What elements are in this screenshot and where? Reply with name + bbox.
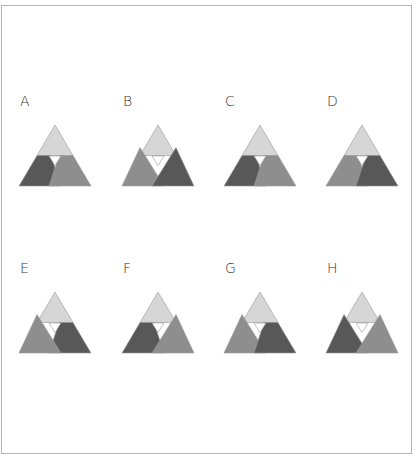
option-b[interactable]: B (120, 93, 210, 203)
triangle-figure (17, 123, 97, 189)
center-gap (152, 156, 164, 166)
top-light-triangle (344, 125, 380, 156)
option-label: E (20, 260, 29, 276)
triangle-figure (120, 123, 200, 189)
top-light-triangle (140, 292, 176, 323)
option-h[interactable]: H (324, 260, 414, 370)
option-label: D (327, 93, 338, 109)
triangle-figure (324, 290, 404, 356)
option-label: A (20, 93, 30, 109)
triangle-figure (222, 123, 302, 189)
triangle-figure (17, 290, 97, 356)
top-light-triangle (242, 125, 278, 156)
top-light-triangle (242, 292, 278, 323)
triangle-figure (222, 290, 302, 356)
top-light-triangle (37, 292, 73, 323)
center-gap (356, 323, 368, 333)
puzzle-frame (1, 5, 412, 454)
option-d[interactable]: D (324, 93, 414, 203)
option-label: C (225, 93, 235, 109)
option-e[interactable]: E (17, 260, 107, 370)
top-light-triangle (37, 125, 73, 156)
option-c[interactable]: C (222, 93, 312, 203)
option-label: H (327, 260, 338, 276)
option-label: B (123, 93, 132, 109)
top-light-triangle (344, 292, 380, 323)
triangle-figure (324, 123, 404, 189)
option-label: G (225, 260, 236, 276)
option-f[interactable]: F (120, 260, 210, 370)
option-a[interactable]: A (17, 93, 107, 203)
triangle-figure (120, 290, 200, 356)
option-label: F (123, 260, 131, 276)
top-light-triangle (140, 125, 176, 156)
option-g[interactable]: G (222, 260, 312, 370)
